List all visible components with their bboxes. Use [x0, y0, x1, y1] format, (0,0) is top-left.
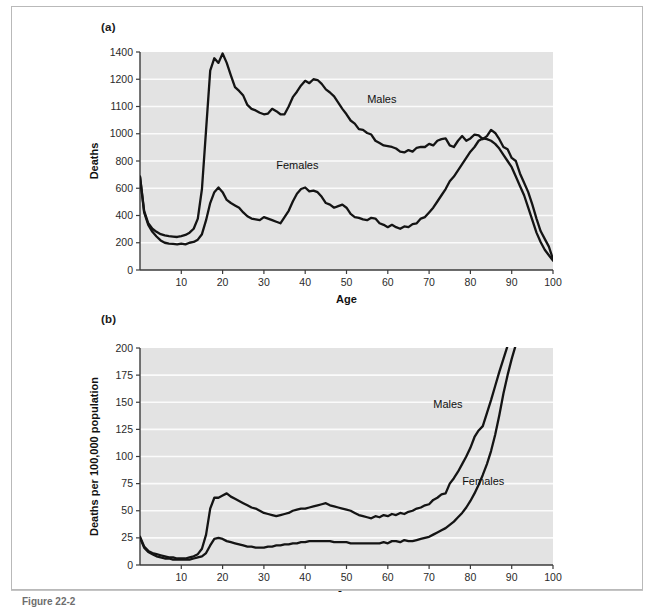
x-axis-title: Age [336, 293, 357, 305]
y-tick-label: 200 [115, 342, 133, 354]
chart-b-svg: 0255075100125150175200102030405060708090… [0, 330, 654, 592]
y-tick-label: 200 [115, 236, 133, 248]
x-tick-label: 10 [175, 571, 187, 583]
y-axis-title: Deaths [88, 143, 100, 180]
y-tick-label: 600 [115, 182, 133, 194]
y-axis-title: Deaths per 100,000 population [88, 377, 100, 536]
x-tick-label: 30 [258, 276, 270, 288]
y-tick-label: 1400 [110, 46, 134, 58]
x-tick-label: 100 [544, 276, 562, 288]
x-tick-label: 40 [299, 276, 311, 288]
x-tick-label: 60 [382, 276, 394, 288]
x-tick-label: 50 [341, 276, 353, 288]
y-tick-label: 800 [115, 155, 133, 167]
series-label-females: Females [276, 159, 319, 171]
y-tick-label: 25 [121, 531, 133, 543]
panel-b-label: (b) [101, 313, 116, 325]
x-tick-label: 20 [217, 571, 229, 583]
figure-caption: Figure 22-2 [22, 596, 632, 608]
y-tick-label: 1000 [110, 127, 134, 139]
y-tick-label: 175 [115, 369, 133, 381]
x-tick-label: 60 [382, 571, 394, 583]
y-tick-label: 1100 [110, 100, 133, 112]
x-tick-label: 80 [465, 571, 477, 583]
chart-a-svg: 0200400600800100011001200140010203040506… [0, 30, 654, 310]
x-tick-label: 80 [465, 276, 477, 288]
y-tick-label: 125 [115, 423, 133, 435]
chart-panel-b: 0255075100125150175200102030405060708090… [0, 330, 654, 592]
x-tick-label: 90 [506, 571, 518, 583]
y-tick-label: 100 [115, 450, 133, 462]
x-tick-label: 90 [506, 276, 518, 288]
series-label-males: Males [433, 398, 463, 410]
caption-divider [11, 590, 643, 591]
y-tick-label: 1200 [110, 73, 134, 85]
x-tick-label: 50 [341, 571, 353, 583]
x-tick-label: 30 [258, 571, 270, 583]
x-tick-label: 70 [423, 276, 435, 288]
y-tick-label: 150 [115, 396, 133, 408]
x-tick-label: 10 [175, 276, 187, 288]
x-tick-label: 20 [217, 276, 229, 288]
chart-panel-a: 0200400600800100011001200140010203040506… [0, 30, 654, 310]
x-tick-label: 100 [544, 571, 562, 583]
y-tick-label: 400 [115, 209, 133, 221]
x-tick-label: 40 [299, 571, 311, 583]
x-tick-label: 70 [423, 571, 435, 583]
y-tick-label: 75 [121, 477, 133, 489]
y-tick-label: 0 [127, 264, 133, 276]
y-tick-label: 0 [127, 559, 133, 571]
y-tick-label: 50 [121, 504, 133, 516]
series-label-males: Males [367, 93, 397, 105]
series-label-females: Females [462, 475, 505, 487]
